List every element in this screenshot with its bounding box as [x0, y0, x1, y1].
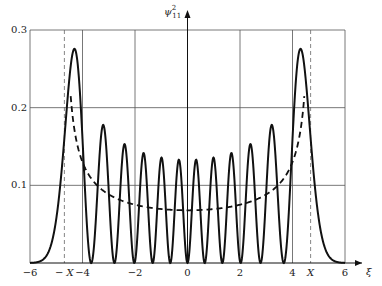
x-tick-label: −4 [75, 267, 90, 278]
y-label-subscript: 11 [172, 12, 181, 20]
x-tick-label: −6 [23, 267, 38, 278]
x-tick-label: 6 [342, 267, 348, 278]
axes [30, 10, 362, 266]
x-tick-labels: −6− X−4−2024X6 [23, 267, 349, 278]
x-axis-arrow-icon [355, 260, 362, 266]
y-axis-label: ψ211 [164, 4, 181, 20]
x-tick-label: X [306, 267, 315, 278]
y-tick-label: 0.2 [11, 102, 27, 113]
x-tick-label: 0 [184, 267, 190, 278]
y-axis-arrow-icon [185, 10, 191, 18]
x-tick-label: −2 [128, 267, 143, 278]
x-tick-label: 4 [289, 267, 295, 278]
x-axis-label: ξ [366, 266, 372, 277]
x-tick-label: − X [55, 267, 75, 278]
y-tick-label: 0.3 [11, 24, 27, 35]
y-tick-labels: 0.10.20.3 [11, 24, 27, 190]
chart: −6− X−4−2024X6 0.10.20.3 ψ211 ξ [0, 0, 382, 286]
y-label-superscript: 2 [172, 4, 176, 12]
y-tick-label: 0.1 [11, 179, 27, 190]
x-tick-label: 2 [237, 267, 243, 278]
